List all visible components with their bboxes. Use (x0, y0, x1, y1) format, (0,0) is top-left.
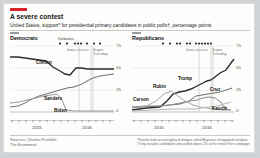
brand-accent-bar (10, 8, 27, 11)
debate-dots-republicans (162, 43, 212, 45)
candidate-label-clinton: Clinton (36, 60, 52, 65)
panel-republicans-title: Republicans (132, 35, 164, 41)
plot-republicans (132, 42, 250, 120)
panel-democrats-tick (10, 32, 19, 34)
source-attribution: Sources: Charles Franklin; The Economist (10, 138, 57, 148)
candidate-label-trump: Trump (178, 76, 192, 81)
panel-democrats: Democrats Debates Iowa caucus Super Tues… (10, 32, 130, 132)
y-tick-75-democrats: 75 (116, 43, 121, 48)
x-tick-2015-democrats: 2015 (32, 125, 42, 130)
x-tick-2016-republicans: 2016 (202, 125, 212, 130)
source-line-2: The Economist (10, 143, 57, 148)
page-title: A severe contest (10, 13, 63, 20)
candidate-label-biden: Biden (54, 108, 67, 113)
y-tick-0-republicans: 0 (236, 108, 238, 113)
plot-democrats-svg (10, 42, 130, 120)
plot-republicans-svg (132, 42, 250, 120)
panel-republicans: Republicans Iowa caucus Super Tuesday (132, 32, 250, 132)
debate-dots-democrats (59, 43, 101, 45)
chart-card: A severe contest United States, support*… (3, 3, 255, 153)
y-tick-25-republicans: 25 (236, 87, 241, 92)
footnotes: *Results from an averaging technique cal… (137, 138, 250, 146)
series-line-clinton (10, 57, 114, 75)
y-tick-50-republicans: 50 (236, 65, 241, 70)
candidate-label-cruz: Cruz (210, 87, 220, 92)
y-tick-0-democrats: 0 (116, 108, 118, 113)
panel-republicans-tick (132, 32, 141, 34)
debates-label-democrats: Debates (58, 36, 74, 41)
candidate-label-rubio: Rubio (153, 84, 166, 89)
x-tick-2016-democrats: 2016 (82, 125, 92, 130)
x-axis-democrats (10, 120, 114, 124)
panel-democrats-title: Democrats (10, 35, 38, 41)
header-divider (10, 30, 250, 31)
y-tick-25-democrats: 25 (116, 87, 121, 92)
x-tick-2015-republicans: 2015 (154, 125, 164, 130)
candidate-label-sanders: Sanders (44, 96, 62, 101)
event-lines-republicans (199, 46, 213, 112)
series-line-sanders (10, 74, 114, 107)
candidate-label-carson: Carson (133, 97, 149, 102)
footer-divider (10, 135, 250, 136)
y-tick-75-republicans: 75 (236, 43, 241, 48)
chart-subtitle: United States, support* for presidential… (10, 23, 211, 28)
plot-democrats (10, 42, 130, 120)
y-tick-50-democrats: 50 (116, 65, 121, 70)
x-axis-republicans (132, 120, 234, 124)
candidate-label-kasich: Kasich (212, 106, 227, 111)
footnote-2: †Only includes candidates who polled abo… (137, 142, 250, 146)
